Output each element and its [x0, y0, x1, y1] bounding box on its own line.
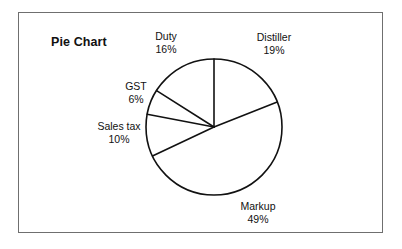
pie-label-markup-value: 49%: [228, 213, 288, 226]
pie-label-duty-value: 16%: [143, 43, 189, 56]
pie-label-duty: Duty 16%: [143, 30, 189, 55]
pie-label-gst: GST 6%: [118, 80, 154, 105]
pie-label-markup: Markup 49%: [228, 200, 288, 225]
pie-label-duty-name: Duty: [155, 30, 177, 42]
pie-label-gst-name: GST: [125, 80, 147, 92]
pie-label-sales-tax-value: 10%: [85, 133, 153, 146]
pie-label-distiller-value: 19%: [243, 44, 305, 57]
pie-label-distiller-name: Distiller: [257, 31, 291, 43]
pie-label-sales-tax: Sales tax 10%: [85, 120, 153, 145]
pie-label-gst-value: 6%: [118, 93, 154, 106]
pie-label-distiller: Distiller 19%: [243, 31, 305, 56]
pie-label-markup-name: Markup: [240, 200, 275, 212]
scanned-page: Pie Chart Duty 16% Distiller 19% GST 6% …: [0, 0, 402, 249]
pie-label-sales-tax-name: Sales tax: [97, 120, 140, 132]
pie-slices: [146, 59, 282, 195]
pie-chart-graphic: [0, 0, 402, 249]
